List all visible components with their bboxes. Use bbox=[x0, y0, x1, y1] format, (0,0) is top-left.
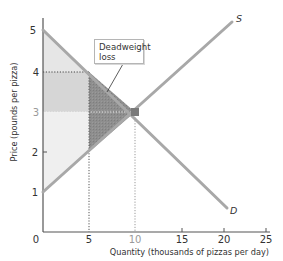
supply-label: S bbox=[236, 13, 242, 24]
x-tick-label-25: 25 bbox=[260, 234, 273, 245]
producer-surplus-area bbox=[43, 112, 89, 192]
y-tick-label-4: 4 bbox=[33, 67, 39, 78]
x-axis-title: Quantity (thousands of pizzas per day) bbox=[110, 247, 269, 257]
demand-label: D bbox=[230, 205, 237, 216]
x-tick-label-10: 10 bbox=[129, 234, 142, 245]
x-tick-label-0: 0 bbox=[33, 234, 39, 245]
transfer-area bbox=[43, 72, 89, 112]
y-tick-label-2: 2 bbox=[32, 147, 38, 158]
x-tick-label-15: 15 bbox=[176, 234, 189, 245]
annotation-line-1: Deadweight bbox=[99, 42, 143, 52]
y-tick-label-3: 3 bbox=[33, 107, 39, 118]
equilibrium-point bbox=[131, 108, 139, 116]
y-axis-title: Price (pounds per pizza) bbox=[9, 63, 19, 162]
annotation-pointer bbox=[107, 64, 123, 92]
x-tick-label-20: 20 bbox=[218, 234, 231, 245]
y-tick-label-1: 1 bbox=[32, 187, 38, 198]
deadweight-loss-annotation: Deadweight loss bbox=[94, 39, 144, 64]
x-tick-label-5: 5 bbox=[86, 234, 92, 245]
annotation-line-2: loss bbox=[99, 52, 143, 62]
y-tick-label-5: 5 bbox=[30, 25, 36, 36]
